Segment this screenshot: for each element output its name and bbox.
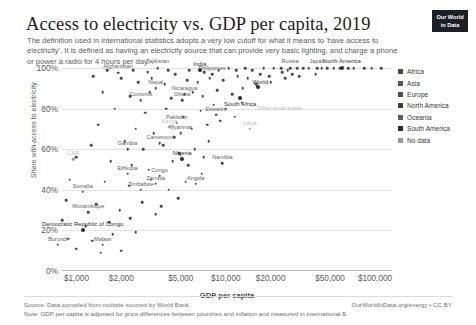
data-point[interactable] <box>186 79 189 82</box>
data-point[interactable] <box>168 126 171 129</box>
data-point[interactable] <box>104 180 107 183</box>
data-point[interactable] <box>194 182 197 185</box>
data-point[interactable] <box>57 243 60 246</box>
data-point[interactable] <box>298 75 301 78</box>
data-point[interactable] <box>75 247 78 250</box>
data-point[interactable] <box>370 67 373 70</box>
data-point[interactable] <box>269 81 272 84</box>
data-point[interactable] <box>281 71 284 74</box>
data-point[interactable] <box>231 93 234 96</box>
data-point[interactable] <box>92 75 95 78</box>
legend-item[interactable]: Oceania <box>398 112 450 123</box>
data-point[interactable] <box>202 156 205 159</box>
data-point[interactable] <box>162 144 165 147</box>
data-point[interactable] <box>251 69 254 72</box>
data-point[interactable] <box>207 140 210 143</box>
data-point[interactable] <box>135 231 138 234</box>
data-point[interactable] <box>147 168 150 171</box>
data-point[interactable] <box>97 124 100 127</box>
data-point[interactable] <box>135 128 138 131</box>
data-point[interactable] <box>296 67 299 70</box>
data-point[interactable] <box>316 67 319 70</box>
data-point[interactable] <box>126 148 129 151</box>
data-point[interactable] <box>81 191 84 194</box>
data-point[interactable] <box>170 97 173 100</box>
data-point[interactable] <box>191 91 194 94</box>
data-point[interactable] <box>146 71 149 74</box>
legend-item[interactable]: Asia <box>398 77 450 88</box>
data-point[interactable] <box>99 251 102 254</box>
data-point[interactable] <box>380 67 383 70</box>
data-point[interactable] <box>180 157 184 161</box>
data-point[interactable] <box>181 99 184 102</box>
data-point[interactable] <box>352 67 355 70</box>
data-point[interactable] <box>171 160 174 163</box>
data-point[interactable] <box>141 201 144 204</box>
data-point[interactable] <box>268 75 271 78</box>
data-point[interactable] <box>154 213 157 216</box>
data-point[interactable] <box>307 67 310 70</box>
data-point[interactable] <box>199 109 202 112</box>
data-point[interactable] <box>219 119 222 122</box>
data-point[interactable] <box>179 132 182 135</box>
data-point[interactable] <box>87 211 90 214</box>
data-point[interactable] <box>221 162 224 165</box>
data-point[interactable] <box>167 189 170 192</box>
legend-item[interactable]: South America <box>398 123 450 134</box>
data-point[interactable] <box>347 67 350 70</box>
data-point[interactable] <box>216 89 219 92</box>
data-point[interactable] <box>72 158 75 161</box>
data-point[interactable] <box>177 197 180 200</box>
data-point[interactable] <box>215 113 218 116</box>
data-point[interactable] <box>249 128 252 131</box>
data-point[interactable] <box>284 77 287 80</box>
legend-item[interactable]: North America <box>398 100 450 111</box>
data-point[interactable] <box>174 73 177 76</box>
data-point[interactable] <box>117 71 120 74</box>
data-point[interactable] <box>256 85 260 89</box>
legend-item[interactable]: Africa <box>398 66 450 77</box>
data-point[interactable] <box>144 111 147 114</box>
data-point[interactable] <box>140 99 143 102</box>
data-point[interactable] <box>241 87 244 90</box>
data-point[interactable] <box>244 67 247 70</box>
data-point[interactable] <box>291 73 294 76</box>
data-point[interactable] <box>193 148 196 151</box>
data-point[interactable] <box>211 73 214 76</box>
data-point[interactable] <box>173 136 176 139</box>
data-point[interactable] <box>333 67 336 70</box>
data-point[interactable] <box>65 199 68 202</box>
data-point[interactable] <box>154 87 157 90</box>
data-point[interactable] <box>142 148 145 151</box>
data-point[interactable] <box>263 67 266 70</box>
data-point[interactable] <box>302 67 305 70</box>
data-point[interactable] <box>228 67 231 70</box>
data-point[interactable] <box>340 66 344 70</box>
data-point[interactable] <box>75 156 78 159</box>
data-point[interactable] <box>187 164 190 167</box>
data-point[interactable] <box>235 69 238 72</box>
data-point[interactable] <box>158 142 161 145</box>
data-point[interactable] <box>363 67 366 70</box>
data-point[interactable] <box>246 77 249 80</box>
data-point[interactable] <box>326 67 329 70</box>
data-point[interactable] <box>113 107 116 110</box>
data-point[interactable] <box>289 67 292 70</box>
data-point[interactable] <box>160 205 163 208</box>
data-point[interactable] <box>106 69 109 72</box>
data-point[interactable] <box>238 96 242 100</box>
data-point[interactable] <box>120 249 123 252</box>
owid-credit-link[interactable]: OurWorldInData.org/energy • CC BY <box>352 301 452 308</box>
data-point[interactable] <box>68 178 71 181</box>
data-point[interactable] <box>184 180 187 183</box>
legend-item[interactable]: Europe <box>398 89 450 100</box>
data-point[interactable] <box>165 107 168 110</box>
data-point[interactable] <box>236 75 239 78</box>
data-point[interactable] <box>129 217 132 220</box>
data-point[interactable] <box>120 77 123 80</box>
data-point[interactable] <box>197 81 200 84</box>
data-point[interactable] <box>156 67 159 70</box>
data-point[interactable] <box>233 115 236 118</box>
data-point[interactable] <box>188 69 191 72</box>
data-point[interactable] <box>222 79 225 82</box>
